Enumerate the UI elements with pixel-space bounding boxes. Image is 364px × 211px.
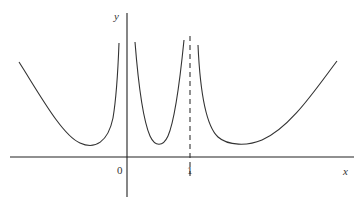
graph-canvas bbox=[0, 0, 364, 211]
right-branch-curve bbox=[198, 45, 337, 144]
middle-branch-curve bbox=[135, 40, 184, 144]
y-axis-label: y bbox=[114, 11, 119, 22]
origin-tick-label: 0 bbox=[117, 165, 123, 176]
x-axis-label: x bbox=[343, 166, 348, 177]
function-graph: y x 0 1 bbox=[0, 0, 364, 211]
tick-label-one: 1 bbox=[187, 165, 193, 176]
left-branch-curve bbox=[19, 43, 119, 145]
